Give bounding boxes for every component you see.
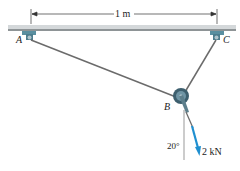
- support-C: [210, 31, 224, 40]
- point-A-label: A: [16, 34, 22, 45]
- cables: [31, 40, 216, 97]
- angle-label: 20°: [167, 141, 180, 151]
- point-C-label: C: [223, 34, 230, 45]
- point-B-label: B: [164, 101, 170, 112]
- pulley-diagram: 1 m A C B 20° 2 kN: [0, 0, 240, 171]
- pulley-B: [173, 88, 189, 113]
- dimension-label: 1 m: [115, 8, 130, 19]
- force-label: 2 kN: [202, 146, 222, 157]
- support-A: [22, 31, 36, 40]
- force-arrow: [192, 126, 201, 156]
